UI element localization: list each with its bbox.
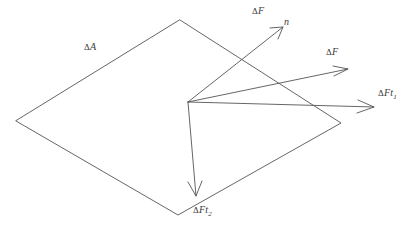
tangential-force-vector-2-shaft xyxy=(188,102,196,196)
resultant-force-vector-shaft xyxy=(188,69,348,102)
resultant-force-symbol: F xyxy=(332,46,338,57)
resultant-force-vector-label: ΔF xyxy=(326,47,338,58)
force-vector-diagram: ΔA ΔF n ΔF ΔFt1 ΔFt2 xyxy=(0,0,406,231)
tangential-force-vector-1-label: ΔFt1 xyxy=(378,88,397,101)
surface-normal-symbol: n xyxy=(284,16,289,27)
normal-force-vector-label: ΔF xyxy=(252,6,264,17)
tangential-2-symbol: Ft xyxy=(199,204,208,215)
tangential-1-symbol: Ft xyxy=(384,87,393,98)
tangential-force-vector-2-label: ΔFt2 xyxy=(193,205,212,218)
normal-force-vector-shaft xyxy=(188,27,283,102)
tangential-2-subscript: 2 xyxy=(208,210,212,218)
tangential-1-subscript: 1 xyxy=(393,93,397,101)
surface-normal-label: n xyxy=(284,17,289,28)
normal-force-symbol: F xyxy=(258,5,264,16)
area-element-label: ΔA xyxy=(84,42,96,53)
area-symbol: A xyxy=(90,41,96,52)
area-element-parallelogram xyxy=(16,20,341,215)
diagram-canvas xyxy=(0,0,406,231)
tangential-force-vector-1-shaft xyxy=(188,102,374,107)
